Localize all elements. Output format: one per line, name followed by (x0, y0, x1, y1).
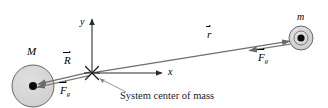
vector-Fg-on-small-mass-label: Fg (258, 52, 268, 65)
large-mass-label: M (27, 46, 36, 57)
system-center-of-mass-caption: System center of mass (120, 91, 214, 102)
vector-Fg-symbol-right: F (258, 52, 265, 63)
vector-Fg-arrow-accent-left (59, 82, 66, 83)
vector-R-symbol: R (64, 55, 71, 66)
vector-r-symbol: r (207, 29, 211, 40)
axis-y-label: y (80, 17, 84, 27)
vector-r-arrow-accent (206, 26, 210, 27)
vector-r-label: r (207, 29, 211, 40)
vector-Fg-letter-left: F (60, 84, 67, 96)
vector-Fg-on-small-mass-line (249, 44, 290, 50)
physics-diagram-gravitation: M m y x R r Fg Fg System center of mass (0, 0, 328, 108)
vector-Fg-arrow-accent-right (257, 49, 264, 50)
vector-Fg-subscript-right: g (265, 57, 268, 64)
vector-Fg-symbol-left: F (60, 85, 67, 96)
small-mass-center-point (297, 34, 304, 41)
large-mass-center-point (29, 82, 37, 90)
vector-Fg-on-large-mass-label: Fg (60, 85, 70, 98)
axis-x-label: x (168, 67, 172, 77)
vector-R-label: R (64, 55, 71, 66)
vector-Fg-subscript-left: g (67, 90, 70, 97)
vector-Fg-letter-right: F (258, 51, 265, 63)
small-mass-label: m (297, 12, 304, 22)
vector-R-arrow-accent (63, 52, 70, 53)
